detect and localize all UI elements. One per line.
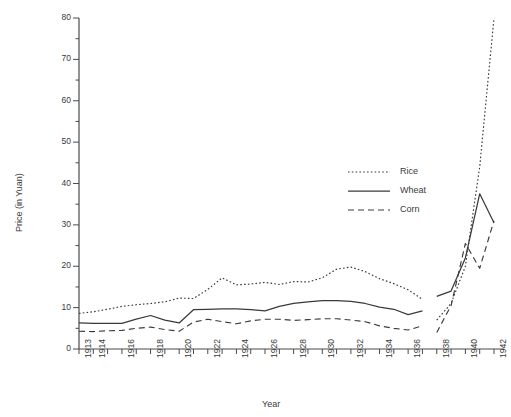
series-line-rice xyxy=(79,267,422,313)
x-tick-label: 1920 xyxy=(183,339,193,358)
y-tick-label: 70 xyxy=(45,53,71,63)
y-tick-label: 50 xyxy=(45,136,71,146)
x-tick-label: 1913 xyxy=(83,339,93,358)
x-tick-label: 1918 xyxy=(155,339,165,358)
y-tick-label: 10 xyxy=(45,302,71,312)
x-tick-label: 1936 xyxy=(412,339,422,358)
x-tick-label: 1924 xyxy=(240,339,250,358)
legend-label-rice: Rice xyxy=(400,166,418,176)
x-tick-label: 1916 xyxy=(126,339,136,358)
x-tick-label: 1932 xyxy=(355,339,365,358)
y-tick-label: 80 xyxy=(45,12,71,22)
legend-label-corn: Corn xyxy=(400,204,420,214)
x-tick-label: 1930 xyxy=(326,339,336,358)
chart-plot-area xyxy=(0,0,511,417)
x-tick-label: 1942 xyxy=(498,339,508,358)
x-tick-label: 1938 xyxy=(441,339,451,358)
series-line-wheat xyxy=(79,301,422,324)
x-tick-label: 1928 xyxy=(298,339,308,358)
y-tick-label: 60 xyxy=(45,95,71,105)
y-tick-label: 0 xyxy=(45,343,71,353)
x-axis-title: Year xyxy=(262,399,280,409)
chart-figure: Price (in Yuan) Year 0102030405060708019… xyxy=(0,0,511,417)
x-tick-label: 1934 xyxy=(384,339,394,358)
x-tick-label: 1914 xyxy=(97,339,107,358)
series-line-corn-wartime xyxy=(437,221,494,333)
x-tick-label: 1926 xyxy=(269,339,279,358)
series-line-rice-wartime xyxy=(437,18,494,320)
y-tick-label: 20 xyxy=(45,260,71,270)
y-axis-title: Price (in Yuan) xyxy=(14,173,24,232)
y-tick-label: 40 xyxy=(45,178,71,188)
legend-label-wheat: Wheat xyxy=(400,185,426,195)
x-tick-label: 1940 xyxy=(469,339,479,358)
x-tick-label: 1922 xyxy=(212,339,222,358)
y-tick-label: 30 xyxy=(45,219,71,229)
